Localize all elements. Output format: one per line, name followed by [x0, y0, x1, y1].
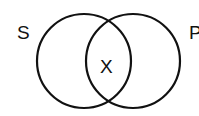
intersection-label: X: [100, 56, 113, 77]
set-p-label: P: [189, 22, 199, 43]
set-s-label: S: [17, 22, 30, 43]
set-s-circle: [37, 14, 131, 108]
venn-diagram: S P X: [0, 0, 199, 116]
